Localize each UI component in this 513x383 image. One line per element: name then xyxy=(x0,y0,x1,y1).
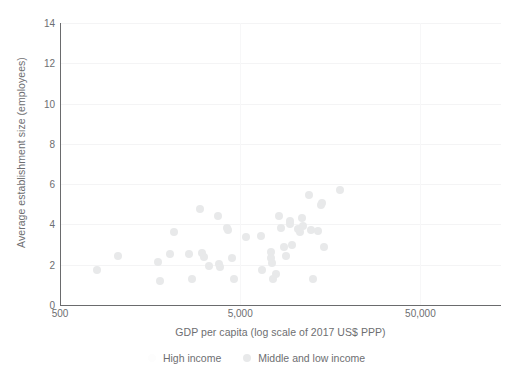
scatter-point[interactable] xyxy=(286,220,294,228)
scatter-point[interactable] xyxy=(258,266,266,274)
gridline-horizontal xyxy=(60,144,501,145)
gridline-horizontal xyxy=(60,23,501,24)
gridline-horizontal xyxy=(60,63,501,64)
x-axis-tick-labels: 5005,00050,000 xyxy=(0,308,513,324)
scatter-point[interactable] xyxy=(170,228,178,236)
legend-marker-icon xyxy=(243,354,251,362)
scatter-point[interactable] xyxy=(166,250,174,258)
scatter-point[interactable] xyxy=(93,266,101,274)
legend-item[interactable]: High income xyxy=(148,352,221,364)
y-tick-label: 4 xyxy=(15,219,55,230)
scatter-point[interactable] xyxy=(185,250,193,258)
gridline-horizontal xyxy=(60,184,501,185)
x-tick-label: 5,000 xyxy=(228,308,253,319)
scatter-point[interactable] xyxy=(154,258,162,266)
scatter-point[interactable] xyxy=(314,227,322,235)
scatter-point[interactable] xyxy=(309,275,317,283)
scatter-point[interactable] xyxy=(214,212,222,220)
y-tick-label: 14 xyxy=(15,18,55,29)
x-axis-line xyxy=(60,305,501,306)
scatter-point[interactable] xyxy=(288,241,296,249)
y-tick-label: 10 xyxy=(15,98,55,109)
chart-legend: High incomeMiddle and low income xyxy=(0,352,513,364)
y-axis-tick-labels: 02468101214 xyxy=(10,23,55,305)
scatter-point[interactable] xyxy=(224,226,232,234)
scatter-point[interactable] xyxy=(318,199,326,207)
scatter-chart: Average establishment size (employees) 0… xyxy=(0,0,513,383)
scatter-point[interactable] xyxy=(298,214,306,222)
scatter-point[interactable] xyxy=(257,232,265,240)
gridline-vertical xyxy=(240,23,241,305)
scatter-point[interactable] xyxy=(275,212,283,220)
y-tick-label: 6 xyxy=(15,179,55,190)
gridline-horizontal xyxy=(60,104,501,105)
gridline-vertical xyxy=(420,23,421,305)
y-tick-label: 8 xyxy=(15,138,55,149)
legend-label: Middle and low income xyxy=(258,352,365,364)
scatter-point[interactable] xyxy=(228,254,236,262)
scatter-point[interactable] xyxy=(188,275,196,283)
x-axis-title: GDP per capita (log scale of 2017 US$ PP… xyxy=(60,326,501,338)
gridline-horizontal xyxy=(60,265,501,266)
x-tick-label: 50,000 xyxy=(405,308,436,319)
scatter-point[interactable] xyxy=(305,191,313,199)
scatter-point[interactable] xyxy=(242,233,250,241)
scatter-point[interactable] xyxy=(272,270,280,278)
legend-marker-icon xyxy=(148,354,156,362)
scatter-point[interactable] xyxy=(200,253,208,261)
scatter-point[interactable] xyxy=(156,277,164,285)
scatter-point[interactable] xyxy=(320,243,328,251)
legend-label: High income xyxy=(163,352,221,364)
scatter-point[interactable] xyxy=(205,262,213,270)
scatter-point[interactable] xyxy=(336,186,344,194)
scatter-point[interactable] xyxy=(268,259,276,267)
y-tick-label: 12 xyxy=(15,58,55,69)
scatter-point[interactable] xyxy=(196,205,204,213)
plot-area xyxy=(60,23,501,305)
scatter-point[interactable] xyxy=(282,252,290,260)
legend-item[interactable]: Middle and low income xyxy=(243,352,365,364)
scatter-point[interactable] xyxy=(114,252,122,260)
y-tick-label: 2 xyxy=(15,259,55,270)
scatter-point[interactable] xyxy=(280,243,288,251)
x-tick-label: 500 xyxy=(52,308,69,319)
scatter-point[interactable] xyxy=(230,275,238,283)
scatter-point[interactable] xyxy=(216,263,224,271)
y-axis-line xyxy=(60,23,61,306)
scatter-point[interactable] xyxy=(277,224,285,232)
scatter-point[interactable] xyxy=(299,222,307,230)
